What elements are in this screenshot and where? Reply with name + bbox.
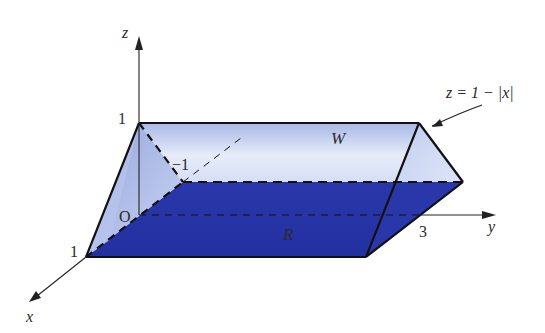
x-tick-neg-1: −1 (172, 156, 189, 173)
x-axis-arrow-icon (29, 291, 41, 302)
x-tick-1: 1 (70, 243, 78, 260)
z-tick-1: 1 (118, 110, 126, 127)
y-tick-3: 3 (419, 223, 427, 240)
x-axis-label: x (25, 308, 33, 325)
base-label-r: R (282, 225, 294, 244)
z-axis-arrow-icon (135, 36, 143, 50)
wedge-diagram: z y x O 1 1 −1 3 W R z = 1 − |x| (0, 0, 545, 333)
solid-label-w: W (331, 129, 347, 148)
z-axis-label: z (121, 24, 129, 41)
x-axis (32, 257, 86, 300)
annotation-arrowhead-icon (432, 119, 443, 127)
surface-equation: z = 1 − |x| (445, 84, 514, 102)
y-axis-label: y (486, 218, 496, 236)
origin-label: O (119, 208, 131, 225)
